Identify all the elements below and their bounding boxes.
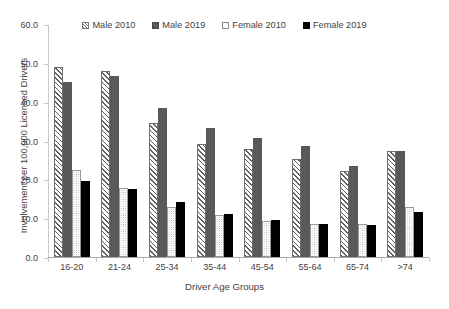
x-tick-label: 45-54 bbox=[239, 262, 287, 272]
bar-group bbox=[143, 25, 191, 257]
bar-male-2010-45-54 bbox=[244, 149, 253, 257]
x-tick-label: 21-24 bbox=[96, 262, 144, 272]
bar-female-2010-55-64 bbox=[310, 224, 319, 257]
x-tick-mark bbox=[334, 258, 335, 262]
bar-female-2019-21-24 bbox=[128, 189, 137, 257]
x-tick-label: 55-64 bbox=[286, 262, 334, 272]
bar-male-2010-55-64 bbox=[292, 159, 301, 257]
y-tick-label: 10.0 bbox=[20, 214, 38, 224]
bar-female-2010-25-34 bbox=[167, 207, 176, 257]
bar-group bbox=[239, 25, 287, 257]
bar-male-2010-25-34 bbox=[149, 123, 158, 257]
x-tick-label: 65-74 bbox=[334, 262, 382, 272]
y-tick-label: 40.0 bbox=[20, 98, 38, 108]
x-tick-mark bbox=[239, 258, 240, 262]
y-tick-mark bbox=[44, 103, 48, 104]
bar-female-2019-65-74 bbox=[367, 225, 376, 257]
bar-male-2019-45-54 bbox=[253, 138, 262, 257]
x-axis-title: Driver Age Groups bbox=[0, 281, 449, 292]
bar-male-2010-65-74 bbox=[340, 171, 349, 257]
bar-chart: Male 2010 Male 2019 Female 2010 Female 2… bbox=[0, 0, 449, 309]
bar-female-2019-25-34 bbox=[176, 202, 185, 257]
bar-group bbox=[48, 25, 96, 257]
bar-groups bbox=[48, 25, 429, 257]
bar-male-2010-16-20 bbox=[54, 67, 63, 257]
x-tick-mark bbox=[191, 258, 192, 262]
bar-group bbox=[286, 25, 334, 257]
x-tick-mark bbox=[48, 258, 49, 262]
x-tick-label: 25-34 bbox=[143, 262, 191, 272]
y-tick-mark bbox=[44, 180, 48, 181]
bar-female-2010-16-20 bbox=[72, 170, 81, 257]
x-tick-label: 35-44 bbox=[191, 262, 239, 272]
y-tick-label: 30.0 bbox=[20, 137, 38, 147]
bar-group bbox=[381, 25, 429, 257]
bar-group bbox=[334, 25, 382, 257]
bar-female-2010-35-44 bbox=[215, 215, 224, 257]
bar-group bbox=[96, 25, 144, 257]
plot-area bbox=[48, 25, 429, 258]
x-tick-mark bbox=[286, 258, 287, 262]
y-tick-mark bbox=[44, 219, 48, 220]
y-tick-mark bbox=[44, 25, 48, 26]
bar-female-2010-21-24 bbox=[119, 188, 128, 257]
x-tick-mark bbox=[429, 258, 430, 262]
y-tick-label: 20.0 bbox=[20, 175, 38, 185]
bar-male-2019->74 bbox=[396, 151, 405, 257]
bar-group bbox=[191, 25, 239, 257]
x-tick-mark bbox=[381, 258, 382, 262]
x-tick-mark bbox=[143, 258, 144, 262]
bar-male-2010-21-24 bbox=[101, 71, 110, 257]
bar-male-2019-35-44 bbox=[206, 128, 215, 257]
bar-female-2010-65-74 bbox=[358, 224, 367, 257]
bar-female-2019-45-54 bbox=[271, 220, 280, 257]
x-tick-label: >74 bbox=[381, 262, 429, 272]
bar-female-2019-16-20 bbox=[81, 181, 90, 257]
bar-male-2019-65-74 bbox=[349, 166, 358, 257]
y-tick-label: 50.0 bbox=[20, 59, 38, 69]
bar-male-2019-25-34 bbox=[158, 108, 167, 257]
bar-male-2010-35-44 bbox=[197, 144, 206, 257]
bar-female-2019-55-64 bbox=[319, 224, 328, 257]
y-tick-mark bbox=[44, 142, 48, 143]
bar-male-2019-21-24 bbox=[110, 76, 119, 257]
y-axis-tick-labels: 0.010.020.030.040.050.060.0 bbox=[0, 25, 44, 258]
bar-female-2019-35-44 bbox=[224, 214, 233, 257]
bar-female-2010->74 bbox=[405, 207, 414, 257]
bar-male-2010->74 bbox=[387, 151, 396, 257]
bar-male-2019-16-20 bbox=[63, 82, 72, 257]
x-tick-label: 16-20 bbox=[48, 262, 96, 272]
y-tick-mark bbox=[44, 64, 48, 65]
bar-male-2019-55-64 bbox=[301, 146, 310, 257]
bar-female-2019->74 bbox=[414, 212, 423, 257]
x-axis-tick-labels: 16-2021-2425-3435-4445-5455-6465-74>74 bbox=[48, 262, 429, 272]
bar-female-2010-45-54 bbox=[262, 221, 271, 257]
y-tick-label: 60.0 bbox=[20, 20, 38, 30]
x-tick-mark bbox=[96, 258, 97, 262]
y-tick-label: 0.0 bbox=[25, 253, 38, 263]
